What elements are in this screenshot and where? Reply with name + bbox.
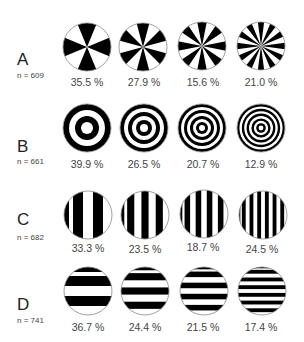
horizontal-stripe-stimulus [179, 266, 229, 316]
radial-sector-stimulus [236, 21, 286, 71]
horizontal-stripe-stimulus [63, 266, 113, 316]
percentage-label: 39.9 % [57, 158, 117, 170]
radial-sector-stimulus [177, 21, 227, 71]
concentric-ring-stimulus [177, 103, 227, 153]
sample-size: n = 609 [17, 71, 44, 80]
sample-size: n = 661 [17, 157, 44, 166]
concentric-ring-stimulus [62, 103, 112, 153]
concentric-ring-stimulus [119, 103, 169, 153]
vertical-stripe-stimulus [63, 190, 113, 240]
radial-sector-stimulus [62, 22, 112, 72]
percentage-label: 17.4 % [231, 321, 291, 333]
percentage-label: 35.5 % [57, 76, 117, 88]
row-a: A n = 609 35.5 % 27.9 % 15.6 % 21.0 % [0, 0, 304, 95]
percentage-label: 33.3 % [58, 242, 118, 254]
percentage-label: 26.5 % [114, 158, 174, 170]
horizontal-stripe-stimulus [237, 266, 287, 316]
percentage-label: 27.9 % [114, 76, 174, 88]
percentage-label: 23.5 % [115, 243, 175, 255]
row-b: B n = 661 39.9 % 26.5 % 20.7 % 12.9 % [0, 95, 304, 180]
vertical-stripe-stimulus [179, 189, 229, 239]
radial-sector-stimulus [118, 22, 168, 72]
vertical-stripe-stimulus [238, 190, 288, 240]
row-letter: C [17, 210, 29, 230]
row-d: D n = 741 36.7 % 24.4 % 21.5 % 17.4 % [0, 258, 304, 342]
percentage-label: 12.9 % [231, 158, 291, 170]
row-letter: D [17, 295, 29, 315]
percentage-label: 20.7 % [173, 158, 233, 170]
percentage-label: 21.5 % [173, 321, 233, 333]
percentage-label: 24.5 % [232, 243, 292, 255]
sample-size: n = 682 [17, 233, 44, 242]
sample-size: n = 741 [17, 316, 44, 325]
horizontal-stripe-stimulus [120, 266, 170, 316]
concentric-ring-stimulus [236, 103, 286, 153]
percentage-label: 36.7 % [58, 321, 118, 333]
vertical-stripe-stimulus [120, 190, 170, 240]
row-letter: A [17, 50, 28, 70]
percentage-label: 18.7 % [173, 241, 233, 253]
row-c: C n = 682 33.3 % 23.5 % 18.7 % 24.5 % [0, 180, 304, 258]
percentage-label: 21.0 % [231, 76, 291, 88]
percentage-label: 15.6 % [173, 76, 233, 88]
percentage-label: 24.4 % [115, 321, 175, 333]
row-letter: B [17, 137, 28, 157]
